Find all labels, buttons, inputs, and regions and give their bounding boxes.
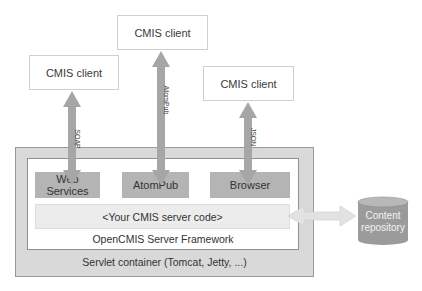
soap-arrow-label: SOAP: [74, 129, 81, 149]
repository-label-line1: Content: [365, 210, 400, 221]
repository-arrow-icon: [288, 206, 356, 226]
json-arrow-icon: JSON: [239, 102, 257, 185]
atompub-arrow-label: AtomPub: [163, 86, 170, 115]
json-arrow-label: JSON: [250, 128, 257, 147]
soap-arrow-icon: SOAP: [63, 91, 81, 185]
repository-label-line2: repository: [361, 222, 405, 233]
atompub-arrow-icon: AtomPub: [152, 51, 170, 185]
diagram-overlay: SOAP AtomPub JSON Content repository: [0, 0, 422, 291]
content-repository-icon: Content repository: [358, 197, 408, 245]
